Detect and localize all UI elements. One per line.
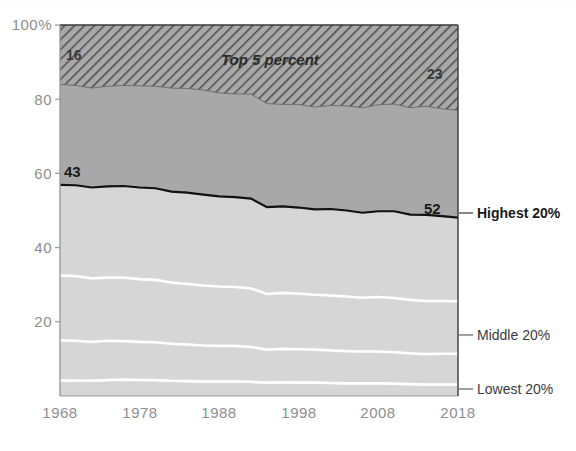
leader-lines xyxy=(459,213,473,389)
series-label-highest-20: Highest 20% xyxy=(477,205,560,221)
x-tick-1968: 1968 xyxy=(30,404,90,421)
series-label-lowest-20: Lowest 20% xyxy=(477,381,553,397)
x-tick-1988: 1988 xyxy=(189,404,249,421)
y-tick-60: 60 xyxy=(6,165,52,182)
y-tick-100: 100% xyxy=(6,16,52,33)
y-tick-80: 80 xyxy=(6,91,52,108)
y-tick-marks xyxy=(55,25,60,322)
annotation-16: 16 xyxy=(66,47,82,63)
income-share-area-chart: 100% 80 60 40 20 1968 1978 1988 1998 200… xyxy=(0,0,576,451)
series-label-middle-20: Middle 20% xyxy=(477,327,550,343)
annotation-43: 43 xyxy=(64,163,81,180)
annotation-top-5-percent: Top 5 percent xyxy=(221,51,319,68)
x-tick-1978: 1978 xyxy=(110,404,170,421)
y-tick-40: 40 xyxy=(6,239,52,256)
x-tick-1998: 1998 xyxy=(269,404,329,421)
annotation-23: 23 xyxy=(427,66,443,82)
annotation-52: 52 xyxy=(424,200,441,217)
y-tick-20: 20 xyxy=(6,313,52,330)
x-tick-2018: 2018 xyxy=(428,404,488,421)
stacked-areas xyxy=(60,25,458,396)
x-tick-2008: 2008 xyxy=(348,404,408,421)
